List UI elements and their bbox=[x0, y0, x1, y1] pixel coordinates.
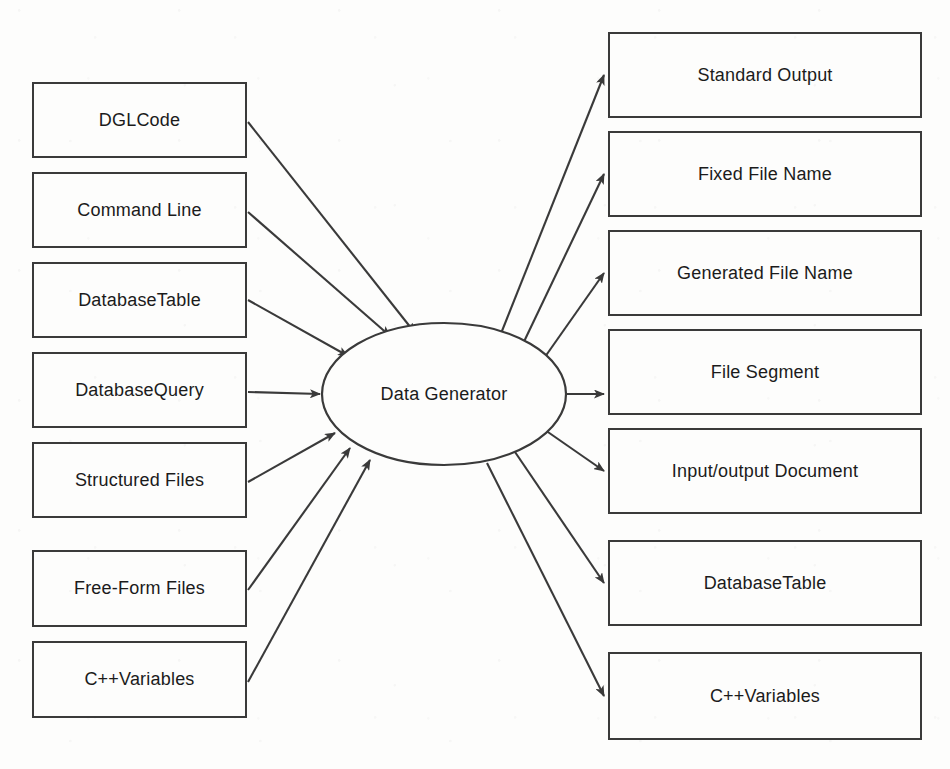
entity-label: Free-Form Files bbox=[74, 578, 205, 599]
input-entity-c-variables[interactable]: C++Variables bbox=[32, 641, 247, 718]
entity-label: DatabaseQuery bbox=[75, 380, 204, 401]
entity-label: Command Line bbox=[77, 200, 201, 221]
output-entity-c-variables[interactable]: C++Variables bbox=[608, 652, 922, 740]
entity-label: Fixed File Name bbox=[698, 164, 832, 185]
entity-label: Input/output Document bbox=[672, 461, 858, 482]
output-entity-file-segment[interactable]: File Segment bbox=[608, 329, 922, 415]
input-entity-free-form-files[interactable]: Free-Form Files bbox=[32, 550, 247, 627]
entity-label: Generated File Name bbox=[677, 263, 853, 284]
flow-arrow-dglcode-to-data-generator bbox=[248, 122, 415, 333]
flow-arrow-free-form-files-to-data-generator bbox=[248, 448, 350, 590]
process-label-data-generator: Data Generator bbox=[381, 384, 508, 405]
entity-label: Structured Files bbox=[75, 470, 204, 491]
entity-label: DGLCode bbox=[99, 110, 180, 131]
flow-arrow-data-generator-to-databasetable bbox=[515, 452, 604, 583]
flow-arrow-data-generator-to-input-output-document bbox=[545, 430, 604, 471]
entity-label: Standard Output bbox=[697, 65, 832, 86]
entity-label: DatabaseTable bbox=[78, 290, 201, 311]
input-entity-databasequery[interactable]: DatabaseQuery bbox=[32, 352, 247, 428]
flow-arrow-data-generator-to-fixed-file-name bbox=[520, 174, 604, 350]
entity-label: C++Variables bbox=[84, 669, 194, 690]
flow-arrow-databasetable-to-data-generator bbox=[248, 300, 348, 356]
input-entity-command-line[interactable]: Command Line bbox=[32, 172, 247, 248]
output-entity-standard-output[interactable]: Standard Output bbox=[608, 32, 922, 118]
input-entity-structured-files[interactable]: Structured Files bbox=[32, 442, 247, 518]
flow-arrow-c-variables-to-data-generator bbox=[248, 460, 370, 682]
input-entity-dglcode[interactable]: DGLCode bbox=[32, 82, 247, 158]
flow-arrow-databasequery-to-data-generator bbox=[248, 392, 320, 394]
entity-label: C++Variables bbox=[710, 686, 820, 707]
output-entity-fixed-file-name[interactable]: Fixed File Name bbox=[608, 131, 922, 217]
entity-label: DatabaseTable bbox=[704, 573, 827, 594]
entity-label: File Segment bbox=[711, 362, 819, 383]
diagram-canvas: Data Generator DGLCodeCommand LineDataba… bbox=[0, 0, 950, 769]
output-entity-generated-file-name[interactable]: Generated File Name bbox=[608, 230, 922, 316]
output-entity-input-output-document[interactable]: Input/output Document bbox=[608, 428, 922, 514]
output-entity-databasetable[interactable]: DatabaseTable bbox=[608, 540, 922, 626]
input-entity-databasetable[interactable]: DatabaseTable bbox=[32, 262, 247, 338]
flow-arrow-structured-files-to-data-generator bbox=[248, 433, 335, 482]
